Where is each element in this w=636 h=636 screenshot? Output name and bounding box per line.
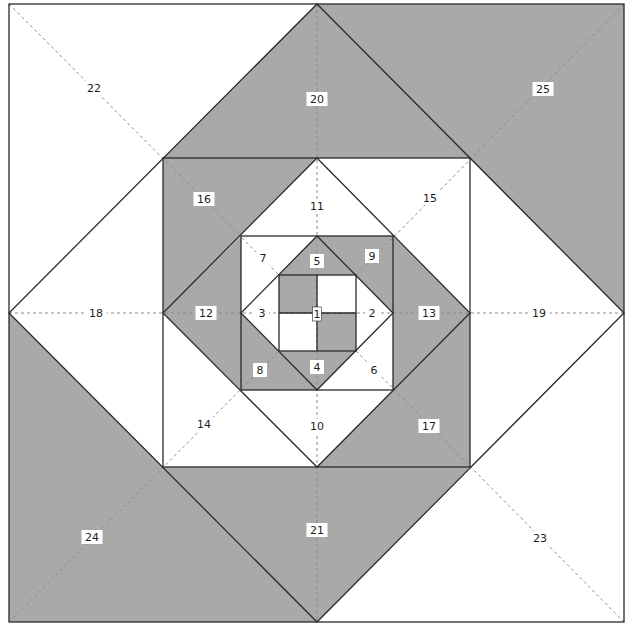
piece-label-13: 13 [422,307,436,320]
piece-label-8: 8 [257,364,264,377]
piece-label-1: 1 [314,308,321,321]
piece-label-19: 19 [532,307,546,320]
piece-label-15: 15 [423,192,437,205]
piece-label-5: 5 [314,255,321,268]
piece-label-4: 4 [314,361,321,374]
piece-label-6: 6 [371,364,378,377]
piece-1 [279,275,317,313]
piece-label-2: 2 [369,307,376,320]
quilt-block-diagram: 1524379861113101216151417201921182225242… [0,0,636,636]
piece-label-21: 21 [310,524,324,537]
piece-1b [317,275,356,313]
piece-label-24: 24 [85,531,99,544]
piece-label-12: 12 [199,307,213,320]
piece-label-3: 3 [259,307,266,320]
piece-label-25: 25 [536,83,550,96]
piece-1d [317,313,356,351]
piece-label-17: 17 [422,420,436,433]
piece-1c [279,313,317,351]
piece-label-14: 14 [197,418,211,431]
piece-label-22: 22 [87,82,101,95]
piece-label-10: 10 [310,420,324,433]
piece-label-23: 23 [533,532,547,545]
piece-label-20: 20 [310,93,324,106]
piece-label-16: 16 [197,193,211,206]
piece-label-11: 11 [310,200,324,213]
piece-label-7: 7 [260,252,267,265]
piece-label-18: 18 [89,307,103,320]
piece-label-9: 9 [369,250,376,263]
